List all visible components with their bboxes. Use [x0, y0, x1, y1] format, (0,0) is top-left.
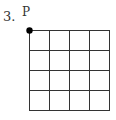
grid-lines: [30, 31, 110, 111]
point-p-dot: [26, 27, 32, 33]
grid-diagram: [0, 0, 116, 120]
